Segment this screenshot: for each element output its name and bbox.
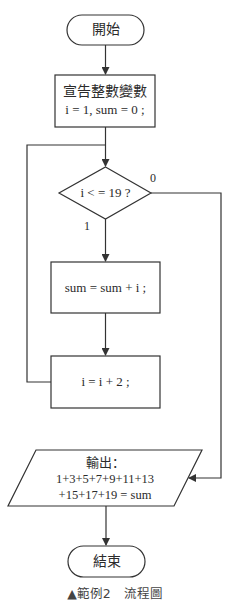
figure-caption: ▲範例2 流程圖 <box>40 588 190 601</box>
decision-true-label: 1 <box>81 220 93 232</box>
declare-title: 宣告整數變數 <box>55 84 155 98</box>
decision-condition: i < = 19 ? <box>59 186 152 199</box>
output-expression-line1: 1+3+5+7+9+11+13 <box>20 473 190 486</box>
accumulate-statement: sum = sum + i ; <box>51 281 160 294</box>
increment-statement: i = i + 2 ; <box>51 375 160 388</box>
start-label: 開始 <box>67 22 144 36</box>
decision-false-label: 0 <box>147 172 159 184</box>
output-title: 輸出： <box>30 456 180 469</box>
caption-text: 範例2 流程圖 <box>77 586 163 601</box>
false-branch-connector <box>151 193 221 478</box>
caption-triangle-icon: ▲ <box>67 586 77 601</box>
loop-back-connector <box>27 145 106 382</box>
declare-statement: i = 1, sum = 0 ; <box>55 103 155 116</box>
end-label: 結束 <box>68 554 145 568</box>
output-expression-line2: +15+17+19 = sum <box>20 489 190 502</box>
